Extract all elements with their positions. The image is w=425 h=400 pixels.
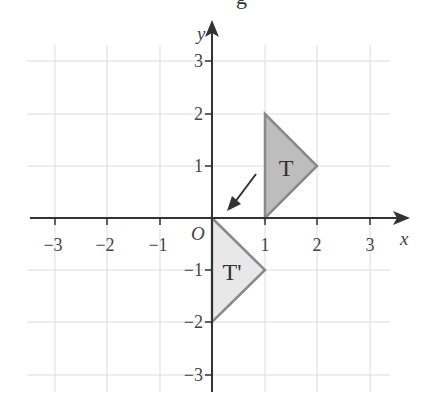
x-tick-label: −3 — [43, 235, 62, 255]
x-tick-label: −2 — [95, 235, 114, 255]
x-tick-label: 3 — [366, 235, 375, 255]
y-tick-label: −3 — [184, 365, 203, 385]
translation-arrow-icon — [227, 174, 256, 211]
x-tick-label: 1 — [261, 235, 270, 255]
graph-svg: g — [0, 0, 425, 400]
coordinate-plane: g — [0, 0, 425, 400]
origin-label: O — [191, 223, 205, 244]
y-axis-label: y — [195, 23, 206, 44]
triangle-T-label: T — [279, 155, 294, 181]
x-tick-label: −1 — [148, 235, 167, 255]
top-text-fragment: g — [236, 0, 247, 9]
y-tick-label: −1 — [184, 260, 203, 280]
x-tick-label: 2 — [313, 235, 322, 255]
y-tick-label: 3 — [194, 51, 203, 71]
triangle-T-prime-label: T' — [223, 259, 242, 285]
x-tick-labels: −3 −2 −1 1 2 3 — [43, 235, 374, 255]
y-tick-label: 1 — [194, 156, 203, 176]
axes — [30, 32, 398, 392]
x-axis-label: x — [399, 228, 409, 249]
y-tick-label: 2 — [194, 104, 203, 124]
y-tick-label: −2 — [184, 312, 203, 332]
